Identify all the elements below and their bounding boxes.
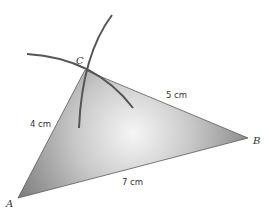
vertex-label-c: C (76, 55, 84, 66)
vertex-label-b: B (252, 135, 260, 146)
vertex-label-a: A (5, 198, 13, 209)
side-label-ab: 7 cm (122, 177, 143, 187)
triangle-diagram: A B C 4 cm 5 cm 7 cm (0, 0, 269, 218)
side-label-ac: 4 cm (30, 119, 51, 129)
side-label-bc: 5 cm (166, 90, 187, 100)
